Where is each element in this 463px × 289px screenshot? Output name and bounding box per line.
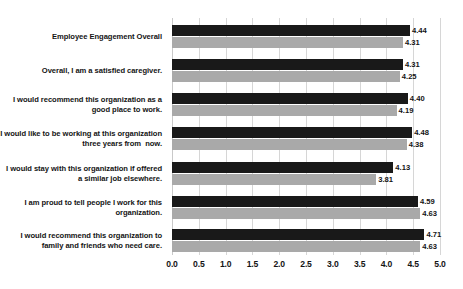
bar xyxy=(172,241,420,252)
x-tick-label: 0.0 xyxy=(157,258,187,270)
category-label: I am proud to tell people I work for thi… xyxy=(0,198,162,217)
bar xyxy=(172,25,410,36)
bar-value-label: 4.19 xyxy=(397,105,414,116)
bar xyxy=(172,105,397,116)
category-label: I would recommend this organization to f… xyxy=(0,231,162,250)
category-label: Employee Engagement Overall xyxy=(0,32,162,42)
bar-value-label: 4.59 xyxy=(418,196,435,207)
bar xyxy=(172,71,400,82)
bar-value-label: 4.63 xyxy=(420,241,437,252)
x-tick-label: 2.0 xyxy=(264,258,294,270)
bar xyxy=(172,139,407,150)
category-label: I would recommend this organization as a… xyxy=(0,95,162,114)
bar-group: 4.444.31 xyxy=(172,25,440,48)
x-tick-label: 5.0 xyxy=(425,258,455,270)
bar-value-label: 4.63 xyxy=(420,208,437,219)
bar-value-label: 4.48 xyxy=(412,127,429,138)
bar-group: 4.404.19 xyxy=(172,93,440,116)
x-tick-label: 4.0 xyxy=(371,258,401,270)
bar-group: 4.484.38 xyxy=(172,127,440,150)
x-tick-label: 4.5 xyxy=(398,258,428,270)
plot-area: 4.444.314.314.254.404.194.484.384.133.81… xyxy=(172,18,440,255)
category-label: I would like to be working at this organ… xyxy=(0,129,162,148)
category-axis-labels: Employee Engagement OverallOverall, I am… xyxy=(0,18,168,255)
bar-value-label: 4.31 xyxy=(403,37,420,48)
bar xyxy=(172,196,418,207)
bar xyxy=(172,59,403,70)
bar-value-label: 4.71 xyxy=(424,229,441,240)
x-tick-label: 3.0 xyxy=(318,258,348,270)
bar xyxy=(172,208,420,219)
bar-group: 4.133.81 xyxy=(172,162,440,185)
bar xyxy=(172,37,403,48)
chart-title xyxy=(0,0,463,9)
gridline-5.0 xyxy=(440,18,441,255)
bar-value-label: 4.38 xyxy=(407,139,424,150)
bar xyxy=(172,162,393,173)
bar-value-label: 4.44 xyxy=(410,25,427,36)
bar xyxy=(172,229,424,240)
bar-value-label: 4.31 xyxy=(403,59,420,70)
bar-group: 4.714.63 xyxy=(172,229,440,252)
x-tick-label: 2.5 xyxy=(291,258,321,270)
bar xyxy=(172,127,412,138)
category-label: Overall, I am a satisfied caregiver. xyxy=(0,66,162,76)
x-tick-label: 1.0 xyxy=(211,258,241,270)
category-label: I would stay with this organization if o… xyxy=(0,164,162,183)
bar-group: 4.594.63 xyxy=(172,196,440,219)
bar xyxy=(172,174,376,185)
bar-value-label: 4.25 xyxy=(400,71,417,82)
bar-value-label: 4.40 xyxy=(408,93,425,104)
bar-chart: Employee Engagement OverallOverall, I am… xyxy=(0,0,463,289)
bar-group: 4.314.25 xyxy=(172,59,440,82)
bar xyxy=(172,93,408,104)
bar-value-label: 4.13 xyxy=(393,162,410,173)
x-tick-label: 0.5 xyxy=(184,258,214,270)
bar-value-label: 3.81 xyxy=(376,174,393,185)
x-axis-tick-labels: 0.00.51.01.52.02.53.03.54.04.55.0 xyxy=(172,258,440,272)
x-tick-label: 3.5 xyxy=(345,258,375,270)
x-tick-label: 1.5 xyxy=(237,258,267,270)
